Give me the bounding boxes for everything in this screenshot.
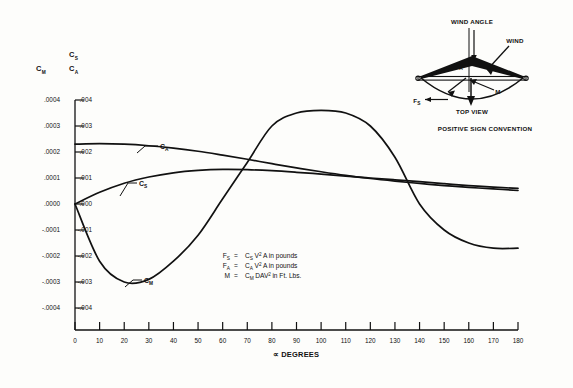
svg-text:CAV2A in pounds: CAV2A in pounds [245, 262, 298, 272]
x-tick-group [75, 322, 518, 330]
y-ticklabel: -.0003 [42, 278, 61, 285]
svg-text:FA: FA [223, 262, 231, 271]
x-ticklabel: 150 [439, 337, 450, 344]
y-ticklabel: .001 [80, 174, 93, 181]
svg-text:FS: FS [223, 252, 230, 261]
y-axis-header-ca: CA [69, 64, 79, 75]
svg-text:CS: CS [69, 50, 79, 61]
sign-convention-diagram: WIND ANGLE WIND ∝ FA M FS TOP VIEW POSIT… [413, 18, 532, 132]
y-ticklabel: .004 [80, 96, 93, 103]
y-ticklabel: -.004 [77, 304, 92, 311]
x-ticklabel: 160 [463, 337, 474, 344]
beam-icon [418, 77, 526, 81]
resultant-arrow-head-icon [467, 96, 475, 106]
alpha-angle-label: ∝ [474, 57, 478, 64]
y-ticklabel: .0004 [44, 96, 60, 103]
top-view-label: TOP VIEW [456, 108, 488, 115]
equation-row: FS = CSV2A in pounds [223, 252, 298, 262]
svg-text:CA: CA [69, 64, 79, 75]
equation-row: FA = CAV2A in pounds [223, 262, 298, 272]
y-ticklabel: .0000 [44, 200, 60, 207]
sign-convention-caption: POSITIVE SIGN CONVENTION [438, 125, 533, 132]
x-ticklabel: 60 [219, 337, 227, 344]
x-ticklabel: 40 [170, 337, 178, 344]
x-ticklabel: 90 [293, 337, 301, 344]
x-ticklabel: 140 [414, 337, 425, 344]
svg-text:CMDAV2in Ft. Lbs.: CMDAV2in Ft. Lbs. [245, 272, 302, 282]
equation-block: FS = CSV2A in pounds FA = CAV2A in pound… [223, 252, 302, 282]
svg-text:=: = [234, 272, 238, 279]
x-ticklabel: 120 [365, 337, 376, 344]
x-ticklabel: 0 [73, 337, 77, 344]
y-ticklabel: .003 [80, 122, 93, 129]
x-ticklabel: 80 [268, 337, 276, 344]
y-ticklabel: .002 [80, 148, 93, 155]
y-axis-header-cs: CS [69, 50, 79, 61]
wind-label: WIND [506, 37, 524, 44]
x-ticklabel-group: 0102030405060708090100110120130140150160… [73, 337, 524, 344]
x-ticklabel: 50 [195, 337, 203, 344]
x-ticklabel: 110 [341, 337, 352, 344]
y-ticklabel: .0001 [44, 174, 60, 181]
wind-angle-label: WIND ANGLE [451, 18, 493, 25]
y-ticklabels-csa: .004 .003 .002 .001 .000 -.001 -.002 -.0… [77, 96, 92, 311]
svg-text:CA: CA [160, 143, 169, 152]
y-ticklabel: -.0004 [42, 304, 61, 311]
y-ticklabel: -.002 [77, 252, 92, 259]
x-axis-title: ∝ DEGREES [273, 350, 320, 359]
y-ticklabels-cm: .0004 .0003 .0002 .0001 .0000 -.0001 -.0… [42, 96, 61, 311]
svg-text:M: M [225, 272, 231, 279]
svg-text:CS: CS [139, 180, 148, 189]
y-ticklabel: .0002 [44, 148, 60, 155]
x-ticklabel: 130 [390, 337, 401, 344]
force-side-arrow-head-icon [425, 97, 431, 102]
equation-row: M = CMDAV2in Ft. Lbs. [225, 272, 302, 282]
x-ticklabel: 70 [244, 337, 252, 344]
curve-label-cs: CS [120, 180, 148, 196]
svg-text:CM: CM [36, 64, 46, 75]
chart-figure: CM CS CA .0004 .0003 .0002 .0001 .0000 -… [0, 0, 573, 388]
y-ticklabel: -.0002 [42, 252, 61, 259]
deck-outline-icon [421, 56, 523, 79]
x-ticklabel: 20 [121, 337, 129, 344]
x-ticklabel: 100 [316, 337, 327, 344]
y-ticklabel: .0003 [44, 122, 60, 129]
leader-line-cs [120, 183, 137, 196]
y-ticklabel: -.0001 [42, 226, 61, 233]
svg-text:=: = [234, 252, 238, 259]
svg-text:=: = [234, 262, 238, 269]
y-axis-header-cm: CM [36, 64, 46, 75]
svg-text:CSV2A in pounds: CSV2A in pounds [245, 252, 298, 262]
y-ticklabel: -.003 [77, 278, 92, 285]
moment-label: M [495, 88, 500, 95]
x-ticklabel: 170 [488, 337, 499, 344]
x-ticklabel: 180 [513, 337, 524, 344]
x-ticklabel: 30 [145, 337, 153, 344]
curve-label-ca: CA [137, 143, 169, 153]
force-side-label: FS [413, 97, 421, 106]
x-ticklabel: 10 [96, 337, 104, 344]
